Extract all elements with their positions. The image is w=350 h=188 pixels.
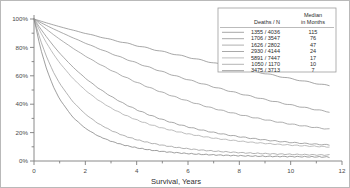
legend-median-months-value: 47 <box>310 42 316 48</box>
x-tick-label: 8 <box>238 167 242 174</box>
legend-median-months-value: 24 <box>310 48 316 54</box>
survival-chart-figure: 0%20%40%60%80%100% 024681012 Survival, Y… <box>0 0 350 188</box>
survival-plot: 0%20%40%60%80%100% 024681012 Survival, Y… <box>1 1 350 188</box>
y-tick-label: 20% <box>16 129 29 136</box>
legend-median-months-value: 17 <box>310 55 316 61</box>
legend-deaths-n-value: 1706 / 3547 <box>251 35 280 41</box>
legend-median-months-value: 7 <box>311 67 314 73</box>
legend-deaths-n-value: 1626 / 2802 <box>251 42 280 48</box>
legend-header-median-line2: in Months <box>301 19 325 25</box>
legend-median-months-value: 76 <box>310 35 316 41</box>
x-tick-label: 2 <box>84 167 88 174</box>
legend-deaths-n-value: 3475 / 3713 <box>251 67 280 73</box>
x-tick-label: 12 <box>339 167 346 174</box>
y-tick-label: 60% <box>16 72 29 79</box>
legend-deaths-n-value: 1355 / 4036 <box>251 29 280 35</box>
legend-header-deaths: Deaths / N <box>254 19 280 25</box>
legend-box: Deaths / NMedianin Months1355 / 40361151… <box>218 8 336 73</box>
legend-deaths-n-value: 1050 / 1170 <box>251 61 280 67</box>
legend-deaths-n-value: 2930 / 4144 <box>251 48 280 54</box>
legend-header-median-line1: Median <box>304 12 322 18</box>
x-tick-label: 4 <box>135 167 139 174</box>
legend-median-months-value: 115 <box>309 29 318 35</box>
y-tick-label: 100% <box>12 15 28 22</box>
y-tick-label: 0% <box>19 157 28 164</box>
y-axis: 0%20%40%60%80%100% <box>12 15 34 164</box>
legend-deaths-n-value: 5891 / 7447 <box>251 55 280 61</box>
x-tick-label: 0 <box>32 167 36 174</box>
x-tick-label: 10 <box>287 167 294 174</box>
x-axis-title: Survival, Years <box>151 177 201 186</box>
legend-median-months-value: 10 <box>310 61 316 67</box>
y-tick-label: 40% <box>16 100 29 107</box>
x-tick-label: 6 <box>186 167 190 174</box>
x-axis: 024681012 <box>32 161 346 174</box>
y-tick-label: 80% <box>16 44 29 51</box>
